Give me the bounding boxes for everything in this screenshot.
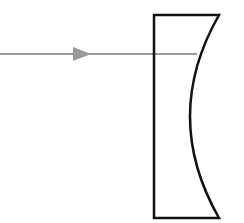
lens-diagram [0, 0, 244, 223]
background [0, 0, 244, 223]
